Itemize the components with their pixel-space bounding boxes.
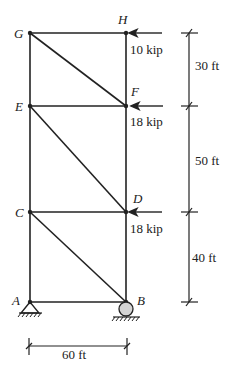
dim-label-50ft: 50 ft xyxy=(195,153,220,168)
dim-label-40ft: 40 ft xyxy=(192,250,217,265)
member-CB xyxy=(30,212,126,302)
dim-label-30ft: 30 ft xyxy=(195,58,220,73)
node-label-F: F xyxy=(130,84,140,99)
node-label-E: E xyxy=(14,99,23,114)
load-label-D: 18 kip xyxy=(130,221,163,236)
node-label-D: D xyxy=(132,191,143,206)
dim-label-60ft: 60 ft xyxy=(62,347,87,362)
node-label-G: G xyxy=(14,26,24,41)
pin-support-A xyxy=(18,302,42,317)
roller-support-B xyxy=(112,302,140,321)
arrow-head-icon xyxy=(129,30,137,37)
joints xyxy=(28,31,128,304)
node-label-C: C xyxy=(15,205,24,220)
load-label-F: 18 kip xyxy=(130,114,163,129)
load-label-H: 10 kip xyxy=(130,42,163,57)
node-label-B: B xyxy=(137,293,145,308)
member-GF xyxy=(30,33,126,106)
truss-diagram: G H E F C D A B 10 kip 18 kip 18 kip 30 … xyxy=(0,0,234,377)
node-label-A: A xyxy=(11,293,20,308)
truss-members xyxy=(30,33,126,302)
arrow-head-icon xyxy=(131,103,139,110)
member-ED xyxy=(30,106,126,212)
node-label-H: H xyxy=(117,12,128,27)
arrow-head-icon xyxy=(129,209,137,216)
